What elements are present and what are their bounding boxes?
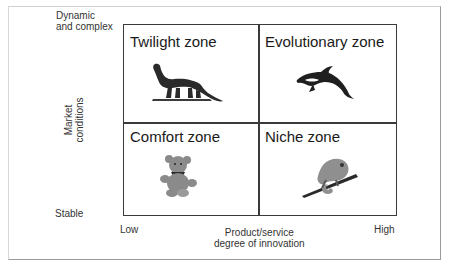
x-axis-title: Product/service degree of innovation xyxy=(214,227,305,249)
quadrant-title-comfort: Comfort zone xyxy=(130,128,220,145)
x-axis-right-label: High xyxy=(374,224,395,235)
teddy-bear-icon xyxy=(157,153,203,199)
y-axis-bottom-label: Stable xyxy=(55,208,83,219)
y-title-line1: Market xyxy=(63,90,74,150)
y-axis-top-label: Dynamic and complex xyxy=(56,10,113,32)
x-title-line2: degree of innovation xyxy=(214,238,305,249)
quadrant-title-twilight: Twilight zone xyxy=(130,33,217,50)
y-top-line1: Dynamic xyxy=(56,10,113,21)
y-title-line2: conditions xyxy=(74,90,85,150)
quadrant-title-evolutionary: Evolutionary zone xyxy=(265,33,384,50)
chameleon-icon xyxy=(300,156,360,200)
y-axis-title: Market conditions xyxy=(63,90,85,150)
x-axis-left-label: Low xyxy=(120,224,138,235)
quadrant-title-niche: Niche zone xyxy=(265,128,340,145)
dolphin-icon xyxy=(295,64,355,100)
x-title-line1: Product/service xyxy=(214,227,305,238)
vertical-divider xyxy=(258,25,260,215)
dinosaur-icon xyxy=(150,60,225,105)
y-top-line2: and complex xyxy=(56,21,113,32)
horizontal-divider xyxy=(124,122,396,124)
